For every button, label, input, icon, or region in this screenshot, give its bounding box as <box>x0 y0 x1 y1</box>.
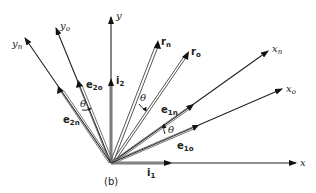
e2n-label: e2n <box>63 115 80 127</box>
rn-vector-label: rn <box>161 37 171 49</box>
i1-arrowhead-icon <box>164 160 172 166</box>
ro-vector-label: ro <box>191 47 201 59</box>
i2-arrowhead-icon <box>108 78 114 86</box>
yn-axis <box>25 38 112 163</box>
y-axis <box>108 17 114 163</box>
i1-label: i1 <box>147 168 155 180</box>
figure-caption: (b) <box>104 177 118 187</box>
e2o-label: e2o <box>86 80 102 92</box>
yo-axis-label: yo <box>60 21 70 33</box>
theta-label-y: θ <box>80 99 86 109</box>
theta-label-r: θ <box>140 93 146 103</box>
x-axis <box>111 160 296 166</box>
theta-arcs <box>82 104 166 134</box>
xn-axis-label: xn <box>272 44 282 56</box>
e1o-label: e1o <box>177 141 193 153</box>
y-axis-label: y <box>116 11 122 21</box>
i2-label: i2 <box>116 76 124 88</box>
yn-axis-label: yn <box>12 39 22 51</box>
theta-label-x: θ <box>168 125 174 135</box>
xo-axis-label: xo <box>286 84 296 96</box>
xo-axis <box>111 89 282 164</box>
e1n-label: e1n <box>161 105 178 117</box>
rotation-diagram <box>0 0 316 193</box>
x-axis-label: x <box>300 158 306 168</box>
